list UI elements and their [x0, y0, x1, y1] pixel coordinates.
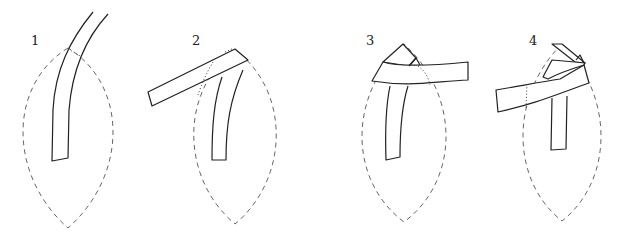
- panel-3: [362, 44, 468, 222]
- strip-4-band: [496, 65, 589, 112]
- panel-2: [148, 49, 276, 224]
- panel-4: [496, 44, 601, 221]
- panel-1: [23, 12, 113, 228]
- strip-1: [52, 12, 108, 161]
- strip-4-vertical: [551, 96, 567, 150]
- strip-3-band: [372, 62, 468, 84]
- bandage-steps-diagram: [0, 0, 618, 241]
- strip-3-vertical: [386, 86, 408, 160]
- strip-2-vertical: [212, 70, 243, 160]
